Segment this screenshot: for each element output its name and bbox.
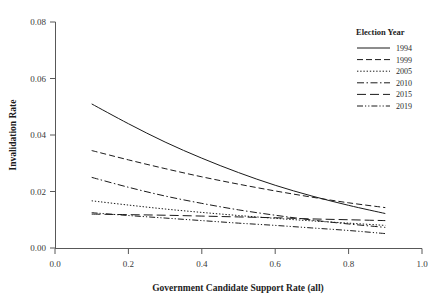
legend-label-2015: 2015 [396, 90, 412, 99]
x-tick-label: 0.2 [123, 259, 134, 269]
x-tick-label: 0.6 [270, 259, 282, 269]
legend-label-2019: 2019 [396, 102, 412, 111]
legend-label-2005: 2005 [396, 67, 412, 76]
chart-figure: 0.000.020.040.060.08 0.00.20.40.60.81.0 … [0, 0, 440, 302]
legend-title: Election Year [356, 27, 405, 37]
x-axis-title: Government Candidate Support Rate (all) [152, 283, 324, 294]
legend-label-1999: 1999 [396, 56, 412, 65]
chart-background [0, 0, 440, 302]
y-tick-label: 0.00 [30, 243, 46, 253]
y-tick-label: 0.08 [30, 17, 46, 27]
x-tick-label: 0.4 [196, 259, 208, 269]
x-tick-label: 1.0 [416, 259, 428, 269]
legend-label-2010: 2010 [396, 79, 412, 88]
y-tick-label: 0.04 [30, 130, 46, 140]
legend-label-1994: 1994 [396, 44, 412, 53]
y-tick-label: 0.02 [30, 187, 46, 197]
y-tick-label: 0.06 [30, 74, 46, 84]
y-axis-title: Invalidation Rate [8, 100, 18, 171]
x-tick-label: 0.0 [49, 259, 61, 269]
line-chart: 0.000.020.040.060.08 0.00.20.40.60.81.0 … [0, 0, 440, 302]
x-tick-label: 0.8 [343, 259, 355, 269]
